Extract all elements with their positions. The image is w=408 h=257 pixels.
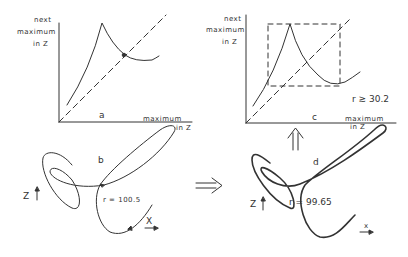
panel-a-map	[59, 15, 192, 122]
panel-c-ylabel-3: in Z	[222, 38, 237, 46]
panel-b-letter: b	[98, 155, 104, 165]
panel-c-map	[246, 15, 396, 123]
panel-c-ylabel-2: maximum	[206, 26, 245, 34]
panel-c-invariant-box	[268, 24, 340, 86]
panel-a-ylabel-3: in Z	[33, 40, 48, 48]
panel-a-fixed-point	[122, 53, 126, 57]
panel-d-letter: d	[313, 157, 319, 167]
panel-d-param: r = 99.65	[289, 197, 332, 207]
panel-c-ylabel-1: next	[224, 15, 242, 23]
panel-a-xlabel-1: maximum	[143, 115, 182, 123]
panel-c-diagonal	[246, 17, 352, 123]
panel-a-xlabel-2: in Z	[176, 124, 191, 132]
panel-d-z-label: Z	[250, 199, 256, 209]
panel-b-z-label: Z	[23, 191, 29, 201]
right-double-arrow	[196, 178, 222, 193]
panel-b-x-label: X	[146, 216, 152, 226]
panel-a-ylabel-2: maximum	[17, 28, 56, 36]
panel-c-xlabel-1: maximum	[345, 115, 384, 123]
panel-b-attractor	[43, 126, 175, 234]
panel-a-ylabel-1: next	[34, 16, 52, 24]
panel-c-param: r ≳ 30.2	[352, 94, 389, 104]
panel-a-diagonal	[59, 15, 166, 122]
panel-a-letter: a	[99, 110, 105, 120]
panel-c-xlabel-2: in Z	[350, 123, 365, 131]
panel-d-attractor	[252, 125, 386, 237]
up-double-arrow	[288, 128, 303, 150]
figure: next maximum in Z a maximum in Z next ma…	[0, 0, 408, 257]
panel-c-letter: c	[312, 112, 317, 122]
panel-c-cusp-curve	[253, 24, 360, 106]
panel-d-x-label: x	[364, 222, 369, 230]
panel-b-param: r = 100.5	[103, 196, 141, 204]
